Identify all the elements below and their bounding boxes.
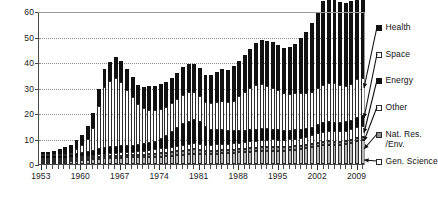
bar-segment <box>265 86 269 129</box>
bar-segment <box>181 95 185 124</box>
bar-segment <box>91 113 95 128</box>
x-tick-mark <box>154 165 155 169</box>
legend-swatch-icon <box>376 25 382 31</box>
bar-segment <box>220 69 224 101</box>
x-tick-mark <box>125 165 126 169</box>
bar-segment <box>271 88 275 130</box>
legend-item[interactable]: Gen. Science <box>376 157 438 167</box>
bar-segment <box>97 106 101 149</box>
x-tick-mark <box>69 165 70 169</box>
x-axis-tick-label: 1974 <box>150 171 169 181</box>
bar-segment <box>237 143 241 150</box>
bar-segment <box>170 78 174 104</box>
bar-segment <box>103 158 107 164</box>
bar-segment <box>175 128 179 145</box>
bar-segment <box>220 101 224 130</box>
bar-segment <box>333 123 337 131</box>
y-axis-tick-label: 10 <box>0 135 34 145</box>
bar-segment <box>293 44 297 94</box>
bar-segment <box>209 130 213 145</box>
bar-segment <box>226 102 230 131</box>
bar-segment <box>170 156 174 164</box>
x-tick-mark <box>266 165 267 169</box>
bar-segment <box>327 145 331 164</box>
bar-segment <box>349 129 353 139</box>
x-tick-mark <box>176 165 177 169</box>
bar-segment <box>170 132 174 146</box>
bar-segment <box>304 148 308 164</box>
bar-segment <box>243 142 247 149</box>
bar-segment <box>142 157 146 164</box>
bar-segment <box>97 89 101 106</box>
bar-segment <box>338 145 342 164</box>
x-tick-mark <box>323 165 324 169</box>
x-tick-mark <box>272 165 273 169</box>
legend-item[interactable]: Nat. Res./Env. <box>376 130 422 149</box>
bar-segment <box>52 162 56 164</box>
x-tick-mark <box>362 165 363 169</box>
y-axis-labels: 0102030405060 <box>0 12 34 165</box>
bar-segment <box>254 141 258 148</box>
bar-segment <box>181 124 185 144</box>
bar-segment <box>282 93 286 131</box>
bar-segment <box>248 88 252 130</box>
bar-segment <box>243 152 247 164</box>
x-tick-mark <box>182 165 183 169</box>
x-axis-ticks <box>38 165 365 170</box>
bar-segment <box>164 107 168 136</box>
x-axis-tick-label: 1967 <box>110 171 129 181</box>
bar-segment <box>316 88 320 125</box>
y-axis-tick-label: 0 <box>0 160 34 170</box>
bar-segment <box>293 93 297 130</box>
x-tick-mark <box>317 165 318 170</box>
bar-segment <box>338 123 342 131</box>
x-tick-mark <box>63 165 64 169</box>
bar-segment <box>293 139 297 147</box>
bar-segment <box>46 162 50 164</box>
x-tick-mark <box>148 165 149 169</box>
bar-segment <box>119 158 123 164</box>
bar-segment <box>321 132 325 142</box>
x-tick-mark <box>306 165 307 169</box>
legend-swatch-icon <box>376 52 382 58</box>
bar-segment <box>276 90 280 131</box>
x-tick-mark <box>249 165 250 169</box>
bar-segment <box>147 157 151 164</box>
bar-segment <box>147 86 151 110</box>
bar-segment <box>293 150 297 164</box>
x-axis-tick-label: 1988 <box>228 171 247 181</box>
x-tick-mark <box>58 165 59 169</box>
bar-segment <box>293 130 297 138</box>
bar-segment <box>97 159 101 164</box>
bar-segment <box>164 82 168 106</box>
x-tick-mark <box>357 165 358 170</box>
bar-segment <box>153 157 157 164</box>
bar-segment <box>299 138 303 146</box>
legend-item[interactable]: Other <box>376 103 407 113</box>
bar-segment <box>153 142 157 149</box>
legend-swatch-icon <box>376 132 382 138</box>
bar-segment <box>69 145 73 153</box>
bar-segment <box>159 84 163 109</box>
bar-segment <box>86 126 90 139</box>
x-tick-mark <box>334 165 335 169</box>
bar-segment <box>159 139 163 148</box>
legend-item[interactable]: Energy <box>376 76 413 86</box>
x-tick-mark <box>295 165 296 169</box>
x-tick-mark <box>289 165 290 169</box>
bar-segment <box>276 151 280 164</box>
bar-segment <box>288 139 292 147</box>
bar-segment <box>265 140 269 148</box>
bar-segment <box>333 131 337 141</box>
bar-segment <box>310 128 314 136</box>
bar-segment <box>232 153 236 164</box>
legend-item[interactable]: Space <box>376 50 410 60</box>
bar-segment <box>175 73 179 99</box>
legend-item[interactable]: Health <box>376 23 411 33</box>
x-tick-mark <box>351 165 352 169</box>
bar-segment <box>181 67 185 95</box>
bar-segment <box>260 84 264 129</box>
x-tick-mark <box>244 165 245 169</box>
x-tick-mark <box>193 165 194 169</box>
bar-segment <box>243 131 247 142</box>
